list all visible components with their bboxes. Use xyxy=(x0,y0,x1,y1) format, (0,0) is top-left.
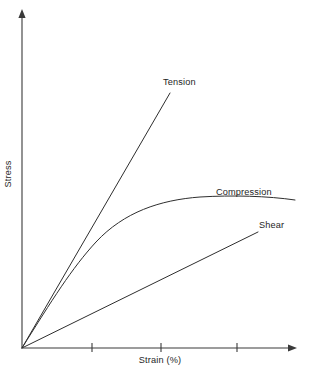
y-axis-arrow-icon xyxy=(18,9,25,18)
shear-label: Shear xyxy=(259,220,284,230)
x-axis-title: Strain (%) xyxy=(139,355,181,365)
compression-label: Compression xyxy=(216,187,272,197)
tension-label: Tension xyxy=(163,77,196,87)
stress-strain-chart: Tension Compression Shear Strain (%) Str… xyxy=(0,0,309,374)
series-group xyxy=(22,93,295,348)
y-axis-title: Stress xyxy=(3,160,13,187)
series-line-shear xyxy=(22,232,258,348)
series-line-tension xyxy=(22,93,170,348)
axes-group xyxy=(18,9,297,352)
chart-canvas: Tension Compression Shear Strain (%) Str… xyxy=(0,0,309,374)
series-labels-group: Tension Compression Shear xyxy=(163,77,284,230)
series-line-compression xyxy=(22,196,295,348)
x-axis-arrow-icon xyxy=(288,344,297,351)
